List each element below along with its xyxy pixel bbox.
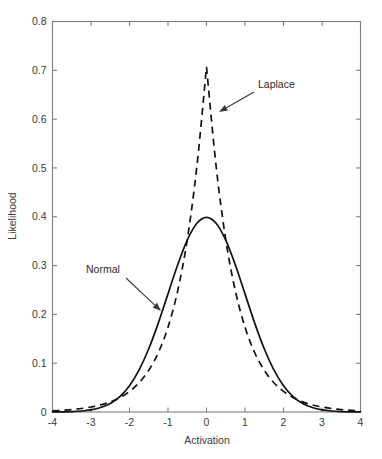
y-tick-label: 0.4 (32, 210, 47, 222)
y-tick-label: 0.1 (32, 357, 47, 369)
y-tick-label: 0.3 (32, 259, 47, 271)
x-axis-title: Activation (184, 434, 230, 446)
y-axis-tick-labels: 00.10.20.30.40.50.60.70.8 (32, 15, 47, 418)
x-tick-label: 4 (358, 416, 364, 428)
x-tick-label: -3 (86, 416, 95, 428)
x-tick-label: 0 (204, 416, 210, 428)
annotation-label-normal: Normal (86, 263, 120, 275)
x-tick-label: -4 (48, 416, 57, 428)
y-tick-label: 0.7 (32, 64, 47, 76)
annotation-label-laplace: Laplace (258, 78, 295, 90)
y-tick-label: 0.2 (32, 308, 47, 320)
x-tick-label: 1 (242, 416, 248, 428)
x-tick-label: -2 (125, 416, 134, 428)
x-tick-label: 2 (281, 416, 287, 428)
y-tick-label: 0 (41, 406, 47, 418)
distribution-comparison-chart: 00.10.20.30.40.50.60.70.8 -4-3-2-101234 … (0, 0, 382, 459)
y-tick-label: 0.6 (32, 113, 47, 125)
chart-background (0, 0, 382, 459)
y-axis-title: Likelihood (6, 192, 18, 239)
y-tick-label: 0.5 (32, 162, 47, 174)
x-tick-label: 3 (319, 416, 325, 428)
y-tick-label: 0.8 (32, 15, 47, 27)
chart-figure: 00.10.20.30.40.50.60.70.8 -4-3-2-101234 … (0, 0, 382, 459)
x-tick-label: -1 (163, 416, 172, 428)
